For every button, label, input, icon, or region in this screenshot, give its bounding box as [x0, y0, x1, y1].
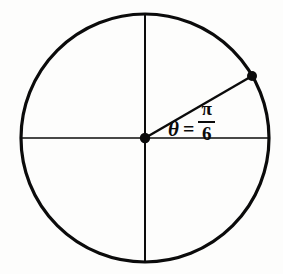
fraction-denominator: 6: [200, 124, 214, 144]
equals-symbol: =: [183, 103, 194, 139]
theta-symbol: θ: [168, 103, 179, 140]
terminal-point-dot: [247, 71, 257, 81]
unit-circle-diagram: [0, 0, 283, 274]
center-point-dot: [140, 133, 150, 143]
fraction-numerator: π: [200, 99, 214, 119]
pi-over-six-fraction: π 6: [198, 99, 215, 144]
unit-circle-figure: θ = π 6: [0, 0, 283, 274]
angle-label: θ = π 6: [168, 99, 215, 144]
